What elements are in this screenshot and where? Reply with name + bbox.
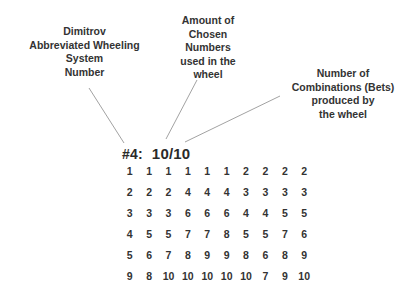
wheel-cell: 3 — [159, 207, 178, 219]
wheel-cell: 2 — [139, 186, 158, 198]
wheel-cell: 7 — [159, 249, 178, 261]
wheel-cell: 5 — [256, 228, 275, 240]
wheel-cell: 5 — [236, 228, 255, 240]
wheel-row: 1111112222 — [120, 160, 314, 181]
wheel-cell: 9 — [217, 249, 236, 261]
wheel-cell: 1 — [139, 165, 158, 177]
wheel-cell: 1 — [159, 165, 178, 177]
callout-line-chosen-numbers — [166, 80, 197, 139]
wheel-cell: 10 — [217, 270, 236, 282]
wheel-cell: 7 — [275, 228, 294, 240]
wheel-cell: 1 — [178, 165, 197, 177]
wheel-cell: 5 — [295, 207, 314, 219]
wheel-cell: 4 — [256, 207, 275, 219]
wheel-cell: 6 — [256, 249, 275, 261]
wheel-cell: 6 — [217, 207, 236, 219]
wheel-cell: 9 — [120, 270, 139, 282]
wheel-cell: 4 — [198, 186, 217, 198]
wheel-cell: 4 — [217, 186, 236, 198]
wheel-cell: 2 — [295, 165, 314, 177]
wheel-cell: 4 — [178, 186, 197, 198]
wheel-cell: 8 — [275, 249, 294, 261]
wheel-cell: 7 — [256, 270, 275, 282]
wheel-cell: 3 — [236, 186, 255, 198]
wheel-cell: 4 — [236, 207, 255, 219]
wheel-cell: 10 — [198, 270, 217, 282]
wheel-cell: 4 — [120, 228, 139, 240]
wheel-cell: 6 — [139, 249, 158, 261]
wheel-cell: 3 — [120, 207, 139, 219]
wheel-row: 4557785576 — [120, 223, 314, 244]
wheel-cell: 8 — [217, 228, 236, 240]
wheel-cell: 10 — [236, 270, 255, 282]
wheel-cell: 10 — [159, 270, 178, 282]
wheel-cell: 8 — [236, 249, 255, 261]
wheel-combination-grid: 1111112222222444333333366644554557785576… — [120, 160, 314, 286]
wheel-cell: 2 — [159, 186, 178, 198]
wheel-cell: 10 — [295, 270, 314, 282]
wheel-cell: 2 — [275, 165, 294, 177]
wheel-cell: 1 — [198, 165, 217, 177]
wheel-cell: 5 — [139, 228, 158, 240]
wheel-cell: 8 — [139, 270, 158, 282]
wheel-cell: 2 — [120, 186, 139, 198]
wheel-row: 5678998689 — [120, 244, 314, 265]
wheel-cell: 3 — [256, 186, 275, 198]
wheel-cell: 2 — [256, 165, 275, 177]
combinations-label: Number of Combinations (Bets) produced b… — [283, 67, 403, 121]
wheel-cell: 3 — [295, 186, 314, 198]
wheel-cell: 6 — [198, 207, 217, 219]
wheel-row: 9810101010107910 — [120, 265, 314, 286]
wheel-cell: 9 — [295, 249, 314, 261]
wheel-cell: 5 — [159, 228, 178, 240]
wheel-row: 3336664455 — [120, 202, 314, 223]
wheel-cell: 10 — [178, 270, 197, 282]
wheel-cell: 1 — [217, 165, 236, 177]
chosen-numbers-label: Amount of Chosen Numbers used in the whe… — [168, 14, 248, 82]
wheel-cell: 3 — [275, 186, 294, 198]
wheel-cell: 8 — [178, 249, 197, 261]
wheel-cell: 9 — [275, 270, 294, 282]
wheel-cell: 1 — [120, 165, 139, 177]
wheel-cell: 9 — [198, 249, 217, 261]
wheel-cell: 7 — [198, 228, 217, 240]
wheel-row: 2224443333 — [120, 181, 314, 202]
wheel-cell: 5 — [120, 249, 139, 261]
wheel-cell: 6 — [178, 207, 197, 219]
wheel-cell: 3 — [139, 207, 158, 219]
wheel-cell: 5 — [275, 207, 294, 219]
wheel-cell: 6 — [295, 228, 314, 240]
callout-line-combinations — [185, 96, 280, 142]
wheel-cell: 2 — [236, 165, 255, 177]
callout-line-system-number — [89, 88, 124, 143]
system-number-label: Dimitrov Abbreviated Wheeling System Num… — [22, 25, 147, 79]
wheel-cell: 7 — [178, 228, 197, 240]
